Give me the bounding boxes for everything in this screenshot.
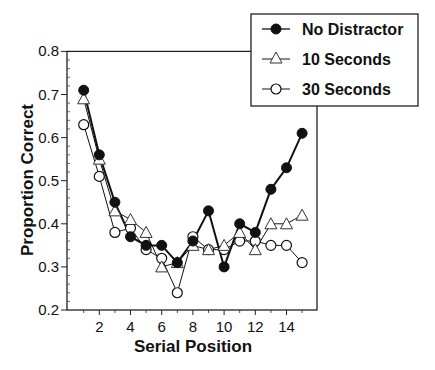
x-tick-label: 2 [95,318,103,335]
open-circle-marker-icon [79,120,89,130]
legend-label: 10 Seconds [302,51,391,68]
x-tick-label: 12 [247,318,264,335]
filled-circle-marker-icon [94,150,104,160]
legend-label: 30 Seconds [302,81,391,98]
filled-circle-marker-icon [188,236,198,246]
y-tick-label: 0.7 [38,86,59,103]
filled-circle-marker-icon [126,232,136,242]
filled-circle-marker-icon [172,258,182,268]
x-tick-label: 8 [189,318,197,335]
filled-circle-marker-icon [297,128,307,138]
filled-circle-marker-icon [235,219,245,229]
open-triangle-marker-icon [140,226,152,237]
y-tick-label: 0.8 [38,42,59,59]
open-triangle-marker-icon [125,213,137,224]
y-axis: 0.20.30.40.50.60.70.8 [38,42,70,318]
y-tick-label: 0.6 [38,129,59,146]
open-circle-marker-icon [94,171,104,181]
open-circle-marker-icon [110,227,120,237]
filled-circle-marker-icon [250,227,260,237]
data-series [78,85,308,298]
legend: No Distractor 10 Seconds 30 Seconds [251,14,418,106]
filled-circle-marker-icon [219,262,229,272]
serial-position-chart: 0.20.30.40.50.60.70.8 2468101214 Serial … [0,0,435,370]
filled-circle-marker-icon [79,85,89,95]
y-axis-title: Proportion Correct [18,104,37,256]
y-tick-label: 0.2 [38,301,59,318]
open-circle-marker-icon [297,258,307,268]
open-triangle-marker-icon [296,209,308,220]
y-tick-label: 0.3 [38,258,59,275]
filled-circle-marker-icon [204,206,214,216]
legend-label: No Distractor [302,21,403,38]
filled-circle-marker-icon [271,24,281,34]
open-circle-marker-icon [172,288,182,298]
open-circle-marker-icon [271,84,281,94]
filled-circle-marker-icon [110,197,120,207]
x-tick-label: 14 [278,318,295,335]
x-tick-label: 6 [158,318,166,335]
y-tick-label: 0.5 [38,172,59,189]
x-tick-label: 4 [126,318,134,335]
y-tick-label: 0.4 [38,215,59,232]
filled-circle-marker-icon [266,184,276,194]
filled-circle-marker-icon [157,240,167,250]
x-axis: 2468101214 [84,310,302,335]
x-tick-label: 10 [216,318,233,335]
x-axis-title: Serial Position [134,337,252,356]
filled-circle-marker-icon [141,240,151,250]
open-circle-marker-icon [266,240,276,250]
filled-circle-marker-icon [282,163,292,173]
open-circle-marker-icon [282,240,292,250]
open-triangle-marker-icon [218,239,230,250]
